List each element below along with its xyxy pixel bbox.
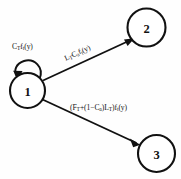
node-1-label: 1 (24, 85, 30, 99)
node-2[interactable]: 2 (128, 9, 166, 47)
lower-label-term-5: (y) (118, 103, 127, 112)
self-loop-1-label: CTft(y) (12, 43, 33, 52)
lower-label-term-1: (FT (70, 103, 80, 112)
node-3-label: 3 (153, 148, 159, 162)
lower-label-term-2: +(1−Ca (80, 103, 102, 112)
edge-1-to-3-label: (FT+(1−Ca)LT)ft(y) (70, 104, 127, 113)
lower-label-term-3: )LT (102, 103, 112, 112)
node-3[interactable]: 3 (138, 135, 175, 172)
transition-diagram: 1 2 3 CTft(y) LTCaft(y) (FT+(1−Ca)LT)ft(… (0, 0, 181, 179)
loop-label-term-3: (y) (24, 42, 33, 51)
node-2-label: 2 (143, 22, 149, 36)
node-1[interactable]: 1 (10, 73, 45, 108)
diagram-canvas: 1 2 3 (0, 0, 181, 179)
